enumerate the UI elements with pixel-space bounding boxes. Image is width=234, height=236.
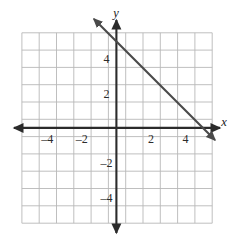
y-tick-label-neg2: –2 bbox=[100, 156, 113, 170]
x-tick-label-neg2: –2 bbox=[75, 132, 88, 146]
x-tick-label-pos4: 4 bbox=[183, 132, 189, 146]
coordinate-plane-svg: –4 –2 2 4 4 2 –2 –4 x y bbox=[0, 0, 234, 236]
y-tick-label-neg4: –4 bbox=[100, 191, 113, 205]
y-tick-label-pos2: 2 bbox=[104, 87, 110, 101]
x-tick-label-pos2: 2 bbox=[148, 132, 154, 146]
coordinate-plane-figure: –4 –2 2 4 4 2 –2 –4 x y bbox=[0, 0, 234, 236]
x-axis-label: x bbox=[220, 115, 227, 129]
y-tick-label-pos4: 4 bbox=[104, 52, 110, 66]
y-axis-label: y bbox=[111, 6, 119, 20]
x-tick-label-neg4: –4 bbox=[40, 132, 53, 146]
